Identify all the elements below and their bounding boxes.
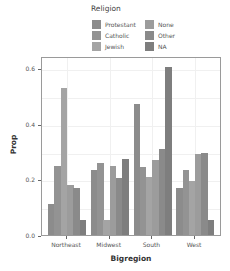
x-tick-mark [66,236,67,239]
y-tick-label: 0.4 [15,121,35,128]
legend-swatch [92,42,101,51]
plot-panel [41,57,221,236]
legend: ProtestantCatholicJewishNoneOtherNA [92,19,202,55]
legend-item: NA [145,41,167,51]
x-tick-mark [151,236,152,239]
legend-label: Jewish [105,43,124,50]
x-tick-mark [194,236,195,239]
gridline [42,126,220,127]
gridline [42,154,220,155]
legend-item: Other [145,30,175,40]
y-tick-label: 0.6 [15,65,35,72]
bar [165,67,172,235]
x-tick-label: Northeast [46,241,86,248]
legend-swatch [145,31,154,40]
bar [80,220,87,235]
legend-label: None [158,21,174,28]
x-tick-label: West [174,241,214,248]
gridline [42,98,220,99]
x-tick-mark [109,236,110,239]
legend-item: Protestant [92,19,136,29]
legend-swatch [145,42,154,51]
legend-title: Religion [91,4,121,13]
legend-swatch [145,20,154,29]
x-tick-label: South [131,241,171,248]
x-axis-label: Bigregion [101,254,161,263]
gridline [42,70,220,71]
legend-swatch [92,31,101,40]
legend-label: Protestant [105,21,136,28]
legend-swatch [92,20,101,29]
legend-item: Catholic [92,30,129,40]
bar [208,220,215,235]
legend-label: Catholic [105,32,129,39]
y-tick-mark [38,236,41,237]
x-tick-label: Midwest [89,241,129,248]
y-axis-label: Prop [9,130,18,160]
legend-item: None [145,19,174,29]
bar [122,159,129,235]
legend-item: Jewish [92,41,124,51]
legend-label: Other [158,32,175,39]
y-tick-label: 0.2 [15,176,35,183]
y-tick-label: 0.0 [15,232,35,239]
legend-label: NA [158,43,167,50]
